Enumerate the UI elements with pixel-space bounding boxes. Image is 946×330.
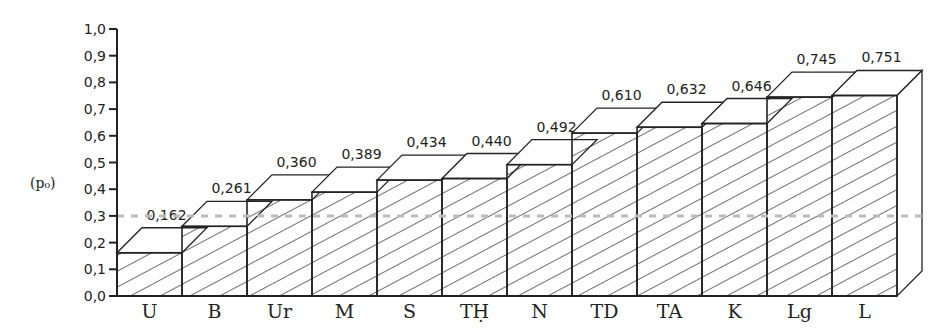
y-tick-label: 0,0 <box>84 288 106 304</box>
y-tick-label: 0,2 <box>84 235 106 251</box>
category-label: K <box>727 300 742 322</box>
category-label: N <box>531 300 548 322</box>
value-label: 0,610 <box>601 87 641 103</box>
value-label: 0,646 <box>731 78 771 94</box>
bars-group: 0,162U0,261B0,360Ur0,389M0,434S0,440TḤ0… <box>117 49 922 322</box>
category-label: TA <box>657 300 683 322</box>
value-label: 0,745 <box>796 51 836 67</box>
y-tick-label: 0,7 <box>84 101 106 117</box>
y-tick-label: 0,9 <box>84 48 106 64</box>
category-label: TḤ <box>460 300 489 322</box>
y-tick-label: 0,3 <box>84 208 106 224</box>
value-label: 0,389 <box>341 146 381 162</box>
category-label: U <box>141 300 157 322</box>
y-tick-label: 0,5 <box>84 155 106 171</box>
category-label: Lg <box>787 300 812 322</box>
y-tick-label: 0,4 <box>84 181 106 197</box>
y-tick-label: 1,0 <box>84 21 106 37</box>
category-label: B <box>208 300 222 322</box>
y-tick-label: 0,6 <box>84 128 106 144</box>
value-label: 0,434 <box>406 134 446 150</box>
category-label: S <box>403 300 416 322</box>
category-label: TD <box>591 300 619 322</box>
value-label: 0,162 <box>146 207 186 223</box>
category-label: L <box>858 300 871 322</box>
value-label: 0,632 <box>666 81 706 97</box>
value-label: 0,261 <box>211 180 251 196</box>
category-label: M <box>335 300 354 322</box>
y-tick-label: 0,8 <box>84 74 106 90</box>
category-label: Ur <box>267 300 293 322</box>
y-tick-label: 0,1 <box>84 261 106 277</box>
bar-L: 0,751L <box>832 49 922 322</box>
value-label: 0,440 <box>471 133 511 149</box>
value-label: 0,492 <box>536 119 576 135</box>
value-label: 0,751 <box>861 49 901 65</box>
bar-chart: 0,162U0,261B0,360Ur0,389M0,434S0,440TḤ0… <box>0 0 946 330</box>
value-label: 0,360 <box>276 154 316 170</box>
